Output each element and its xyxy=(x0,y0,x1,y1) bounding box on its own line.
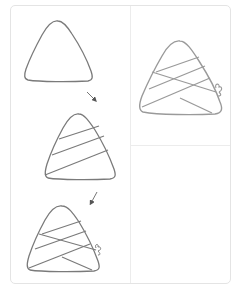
arrow-down-left-icon xyxy=(91,192,97,203)
step-1-drawing: Step 1: draw a rounded triangle outline xyxy=(25,21,93,82)
step-2-drawing: Step 2: add three diagonal wrapping band… xyxy=(45,114,115,180)
final-drawing: Finished zongzi xyxy=(140,41,222,115)
arrow-down-right-icon xyxy=(87,92,95,100)
step-3-drawing: Step 3: add crossing bands and the strin… xyxy=(27,206,100,272)
